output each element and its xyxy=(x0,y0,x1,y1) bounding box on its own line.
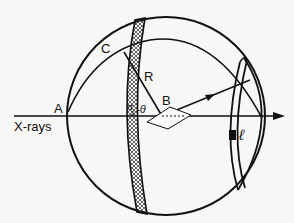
detector-ring-inner xyxy=(237,60,247,188)
label-c: C xyxy=(101,41,110,56)
crystal-sample xyxy=(147,107,191,129)
label-b: B xyxy=(162,93,171,108)
beam-arrow-icon xyxy=(273,112,285,120)
diffracted-arrow-icon xyxy=(205,94,215,101)
length-segment-mark xyxy=(229,130,236,140)
label-a: A xyxy=(54,101,63,116)
label-xrays: X-rays xyxy=(14,119,52,134)
label-length: ℓ xyxy=(238,126,245,143)
label-angle-rest: -θ xyxy=(136,103,146,115)
label-r: R xyxy=(144,69,153,84)
ewald-sphere-diagram: A X-rays C R B π 2 -θ ℓ xyxy=(0,0,294,223)
